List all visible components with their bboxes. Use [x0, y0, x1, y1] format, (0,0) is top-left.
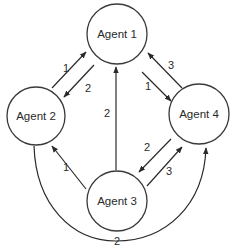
edge-label: 2 — [104, 107, 110, 119]
edge-label: 3 — [166, 165, 172, 177]
edge-agent3-to-agent2: 1 — [52, 146, 86, 189]
edge-agent3-to-agent1: 2 — [104, 67, 116, 170]
edge-label: 1 — [145, 80, 151, 92]
node-label: Agent 4 — [179, 108, 219, 120]
node-agent-4: Agent 4 — [169, 84, 229, 144]
agent-communication-diagram: 1 2 1 3 2 1 2 3 — [0, 0, 234, 250]
edge-label: 2 — [85, 82, 91, 94]
node-agent-1: Agent 1 — [87, 4, 147, 64]
edge-agent1-to-agent4: 1 — [142, 72, 171, 101]
node-agent-2: Agent 2 — [7, 87, 65, 145]
node-label: Agent 3 — [97, 195, 137, 207]
node-agent-3: Agent 3 — [87, 171, 147, 231]
edge-agent3-to-agent4: 3 — [147, 147, 182, 186]
edge-label: 2 — [114, 235, 120, 247]
edge-label: 3 — [168, 59, 174, 71]
edge-label: 2 — [144, 141, 150, 153]
node-label: Agent 1 — [97, 28, 137, 40]
edge-agent2-to-agent1: 1 — [52, 52, 86, 88]
edge-label: 1 — [63, 161, 69, 173]
edge-label: 1 — [63, 62, 69, 74]
node-label: Agent 2 — [16, 110, 56, 122]
